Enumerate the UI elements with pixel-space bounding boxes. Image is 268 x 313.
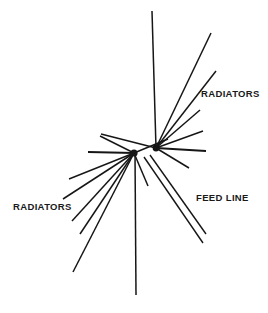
wire-rh-up-right-3 [156, 110, 200, 148]
wire-lh-horizontal [88, 152, 134, 153]
wire-rh-down-right [156, 148, 189, 168]
antenna-diagram: RADIATORS RADIATORS FEED LINE [0, 0, 268, 313]
hub-node-right-hub [153, 145, 160, 152]
wire-lh-down-left-4 [80, 153, 134, 234]
label-radiators-right: RADIATORS [201, 89, 260, 99]
wire-feed-wire-b [144, 157, 203, 243]
wire-lh-down-right [134, 153, 148, 186]
hub-nodes-layer [130, 145, 159, 157]
wire-lh-down-left-5 [73, 153, 134, 272]
wire-rh-horizontal [156, 148, 206, 151]
hub-node-left-hub [130, 149, 137, 156]
wires-layer [63, 11, 216, 295]
wire-lh-vertical-down [135, 153, 136, 295]
label-feed-line: FEED LINE [196, 193, 249, 203]
wire-rh-vertical-up [152, 11, 156, 148]
wire-lh-down-left-1 [69, 153, 134, 179]
antenna-wire-canvas [0, 0, 268, 313]
label-radiators-left: RADIATORS [13, 202, 72, 212]
